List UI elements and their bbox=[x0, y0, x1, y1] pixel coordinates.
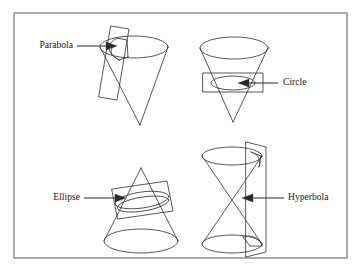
label-ellipse: Ellipse bbox=[53, 191, 80, 202]
conic-sections-figure: Parabola Circle bbox=[0, 0, 361, 273]
label-circle: Circle bbox=[283, 76, 306, 87]
conic-sections-canvas: Parabola Circle bbox=[0, 0, 361, 273]
label-hyperbola: Hyperbola bbox=[288, 191, 329, 202]
label-parabola: Parabola bbox=[39, 39, 73, 50]
